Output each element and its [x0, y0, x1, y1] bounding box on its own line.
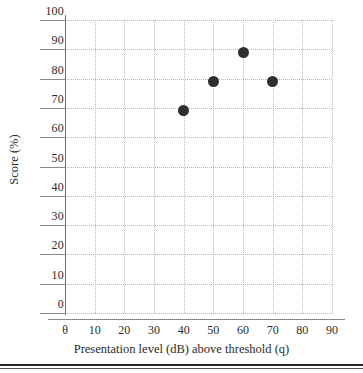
gridline-horizontal: [65, 225, 332, 226]
y-tick-rule: [40, 196, 66, 197]
y-axis-title: Score (%): [7, 100, 22, 220]
gridline-horizontal: [65, 284, 332, 285]
gridline-vertical: [154, 20, 155, 313]
gridline-horizontal: [65, 254, 332, 255]
x-axis-spine: [48, 319, 345, 320]
gridline-horizontal: [65, 167, 332, 168]
y-tick-rule: [40, 225, 66, 226]
y-tick-label: 20: [24, 239, 64, 252]
gridline-vertical: [213, 20, 214, 313]
gridline-vertical: [243, 20, 244, 313]
gridline-horizontal: [65, 79, 332, 80]
gridline-horizontal: [65, 108, 332, 109]
data-point: [178, 105, 189, 116]
y-tick-rule: [40, 20, 66, 21]
y-tick-label: 80: [24, 64, 64, 77]
y-tick-rule: [40, 167, 66, 168]
y-tick-label: 10: [24, 269, 64, 282]
gridline-horizontal: [65, 20, 332, 21]
data-point: [238, 47, 249, 58]
gridline-vertical: [184, 20, 185, 313]
gridline-vertical: [273, 20, 274, 313]
y-axis-spine: [65, 15, 66, 315]
y-tick-label: 50: [24, 152, 64, 165]
y-tick-rule: [40, 254, 66, 255]
gridline-vertical: [302, 20, 303, 313]
y-tick-rule: [40, 79, 66, 80]
y-tick-label: 70: [24, 93, 64, 106]
y-tick-rule: [40, 313, 66, 314]
bottom-rule-secondary: [0, 368, 363, 369]
y-tick-label: 90: [24, 34, 64, 47]
gridline-horizontal: [65, 49, 332, 50]
gridline-horizontal: [65, 196, 332, 197]
plot-area: [65, 20, 332, 313]
y-tick-rule: [40, 49, 66, 50]
y-tick-label: 40: [24, 181, 64, 194]
bottom-rule: [0, 364, 363, 366]
data-point: [208, 76, 219, 87]
gridline-horizontal: [65, 313, 332, 314]
gridline-vertical: [95, 20, 96, 313]
gridline-vertical: [124, 20, 125, 313]
gridline-vertical: [332, 20, 333, 313]
x-axis-title: Presentation level (dB) above threshold …: [0, 342, 363, 357]
y-tick-label: 60: [24, 122, 64, 135]
gridline-horizontal: [65, 137, 332, 138]
y-tick-rule: [40, 284, 66, 285]
y-tick-rule: [40, 108, 66, 109]
y-tick-label: 100: [24, 5, 64, 18]
data-point: [267, 76, 278, 87]
y-tick-label: 0: [24, 298, 64, 311]
y-tick-rule: [40, 137, 66, 138]
scatter-plot-figure: 0102030405060708090100 θ1020304050607080…: [0, 0, 363, 373]
y-tick-label: 30: [24, 210, 64, 223]
x-tick-label: 90: [312, 323, 352, 337]
